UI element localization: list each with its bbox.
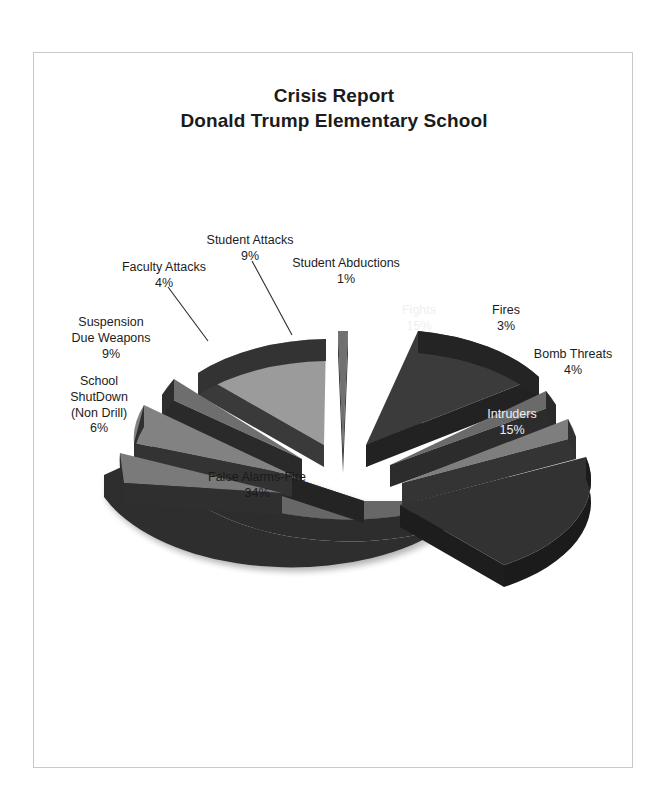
label-fires-name: Fires [451,303,561,319]
label-school-shutdown-line-1: School [34,374,164,390]
label-school-shutdown: School ShutDown (Non Drill) 6% [34,374,164,437]
label-bomb-threats: Bomb Threats 4% [513,347,633,379]
label-student-attacks-name: Student Attacks [170,233,330,249]
label-intruders-pct: 15% [462,423,562,439]
label-faculty-attacks-pct: 4% [89,276,239,292]
label-suspension-line-2: Due Weapons [37,331,185,347]
label-suspension-due-weapons: Suspension Due Weapons 9% [37,315,185,362]
label-student-abductions-pct: 1% [256,272,436,288]
label-intruders: Intruders 15% [462,407,562,439]
label-student-abductions-name: Student Abductions [256,256,436,272]
document-page: Crisis Report Donald Trump Elementary Sc… [33,52,633,768]
label-false-alarms-fire-name: False Alarms-Fire [177,470,337,486]
label-student-abductions: Student Abductions 1% [256,256,436,288]
label-school-shutdown-line-2: ShutDown [34,390,164,406]
label-faculty-attacks-name: Faculty Attacks [89,260,239,276]
label-suspension-pct: 9% [37,347,185,363]
label-false-alarms-fire: False Alarms-Fire 34% [177,470,337,502]
label-suspension-line-1: Suspension [37,315,185,331]
label-fires-pct: 3% [451,319,561,335]
label-fights-name: Fights [374,303,464,319]
label-fires: Fires 3% [451,303,561,335]
label-bomb-threats-pct: 4% [513,363,633,379]
label-school-shutdown-line-3: (Non Drill) [34,406,164,422]
label-bomb-threats-name: Bomb Threats [513,347,633,363]
label-intruders-name: Intruders [462,407,562,423]
label-fights-pct: 15% [374,319,464,335]
label-faculty-attacks: Faculty Attacks 4% [89,260,239,292]
label-fights: Fights 15% [374,303,464,335]
label-false-alarms-fire-pct: 34% [177,486,337,502]
label-school-shutdown-pct: 6% [34,421,164,437]
